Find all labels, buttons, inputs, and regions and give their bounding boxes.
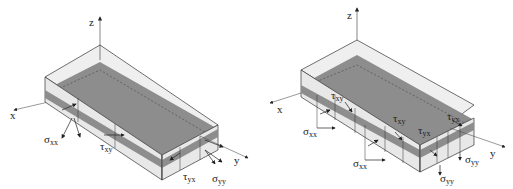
x-axis-label-left: x <box>10 109 16 121</box>
tau-yx-label: τyx <box>183 170 195 184</box>
sigma-yy-label-1: σyy <box>465 153 479 167</box>
right-panel: x y z τxy σxx τxy τyx τyx σxx σyy σyy <box>270 8 505 186</box>
sigma-yy-label-2: σyy <box>440 172 454 186</box>
z-axis-label-left: z <box>89 16 94 28</box>
y-axis-label-right: y <box>490 147 496 159</box>
y-axis-label-left: y <box>234 154 240 166</box>
left-panel: x y z σxx τxy τyx σyy <box>10 16 248 186</box>
z-axis-label-right: z <box>347 9 352 21</box>
stress-diagram: x y z σxx τxy τyx σyy <box>0 0 513 189</box>
sigma-xx-label-1: σxx <box>303 125 317 139</box>
sigma-yy-label: σyy <box>212 172 226 186</box>
sigma-xx-label: σxx <box>44 133 58 147</box>
x-axis-label-right: x <box>277 103 283 115</box>
